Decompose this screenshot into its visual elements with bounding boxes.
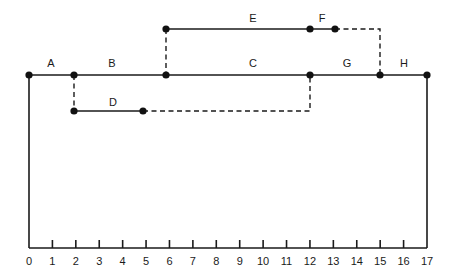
axis-tick-label: 4: [120, 255, 126, 267]
axis-tick-label: 13: [327, 255, 339, 267]
node-e-end: [306, 25, 313, 32]
label-a: A: [47, 57, 54, 69]
label-f: F: [319, 12, 326, 24]
axis-tick-label: 7: [190, 255, 196, 267]
node-12: [306, 71, 313, 78]
node-0: [25, 71, 32, 78]
label-e: E: [249, 12, 256, 24]
label-b: B: [108, 57, 115, 69]
float-d: [143, 75, 310, 111]
axis-tick-label: 1: [49, 255, 55, 267]
node-2: [70, 71, 77, 78]
label-g: G: [343, 57, 352, 69]
label-d: D: [109, 96, 117, 108]
node-15: [376, 71, 383, 78]
axis-ticks: [52, 240, 403, 248]
axis-tick-label: 5: [143, 255, 149, 267]
axis-tick-label: 14: [351, 255, 363, 267]
axis-tick-label: 12: [304, 255, 316, 267]
label-h: H: [400, 57, 408, 69]
axis-tick-label: 0: [26, 255, 32, 267]
axis-tick-label: 11: [281, 255, 292, 267]
node-f-end: [331, 25, 338, 32]
axis-tick-label: 10: [257, 255, 269, 267]
axis-tick-label: 15: [374, 255, 386, 267]
node-17: [423, 71, 430, 78]
label-c: C: [249, 57, 257, 69]
axis-tick-label: 9: [237, 255, 243, 267]
axis-tick-label: 8: [213, 255, 219, 267]
axis-tick-label: 17: [421, 255, 433, 267]
axis-tick-label: 2: [73, 255, 79, 267]
diagram-canvas: [0, 0, 453, 273]
axis-tick-label: 16: [397, 255, 409, 267]
node-6: [162, 71, 169, 78]
axis-tick-label: 6: [166, 255, 172, 267]
node-d-end: [139, 107, 146, 114]
network-diagram: A B C G H D E F 012345678910111213141516…: [0, 0, 453, 273]
node-e-start: [162, 25, 169, 32]
axis-tick-label: 3: [96, 255, 102, 267]
node-d-start: [70, 107, 77, 114]
